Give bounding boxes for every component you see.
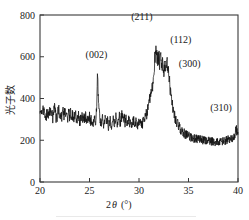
xrd-figure: 2025303540 0200400600800 (002)(211)(112)…: [0, 0, 249, 220]
plot-frame: [40, 15, 238, 182]
x-axis-title: 2 θ (°): [106, 199, 132, 211]
y-axis-ticks: [40, 15, 44, 182]
xrd-chart-canvas: 2025303540 0200400600800 (002)(211)(112)…: [0, 0, 249, 220]
y-tick-label: 600: [20, 51, 35, 62]
x-tick-label: 30: [134, 185, 144, 196]
peak-label-211: (211): [131, 11, 152, 23]
diffraction-trace-group: [40, 46, 238, 146]
peak-label-002: (002): [86, 49, 108, 61]
x-tick-label: 35: [184, 185, 194, 196]
x-axis-title-theta: θ: [112, 199, 117, 210]
x-tick-label: 25: [85, 185, 95, 196]
peak-label-310: (310): [210, 102, 232, 114]
x-tick-label: 40: [233, 185, 243, 196]
y-tick-label: 800: [20, 10, 35, 21]
y-tick-label: 0: [30, 177, 35, 188]
peak-label-112: (112): [170, 34, 191, 46]
x-tick-label: 20: [35, 185, 45, 196]
peak-label-300: (300): [179, 58, 201, 70]
diffraction-trace: [40, 46, 238, 146]
y-axis-title: 光子数: [4, 85, 16, 115]
x-axis-tick-labels: 2025303540: [35, 185, 243, 196]
y-tick-label: 200: [20, 135, 35, 146]
y-axis-title-label: 光子数: [4, 85, 16, 115]
x-axis-ticks: [40, 178, 238, 182]
y-tick-label: 400: [20, 93, 35, 104]
y-axis-tick-labels: 0200400600800: [20, 10, 35, 188]
x-axis-title-unit: (°): [121, 199, 132, 211]
x-axis-title-number: 2: [106, 199, 111, 210]
caption-rule: [56, 216, 196, 217]
